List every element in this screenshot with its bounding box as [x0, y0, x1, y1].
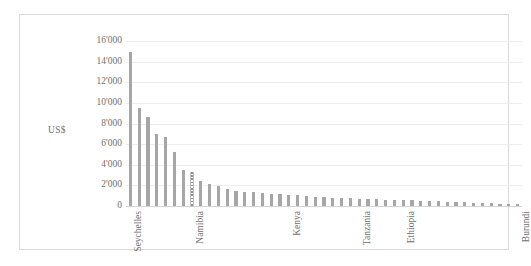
y-axis-tick-label: 16'000: [97, 36, 122, 46]
bar: [490, 203, 493, 206]
bar: [129, 52, 132, 206]
bar: [410, 200, 413, 206]
bar: [296, 195, 299, 206]
bar: [182, 170, 185, 206]
bar: [243, 192, 246, 206]
bar: [481, 203, 484, 206]
y-axis-tick-label: 8'000: [101, 119, 122, 129]
bar: [437, 201, 440, 206]
bar: [199, 181, 202, 206]
y-axis-tick-label: 6'000: [101, 139, 122, 149]
bar: [366, 199, 369, 206]
bar: [278, 194, 281, 206]
bar: [340, 198, 343, 206]
y-axis-tick-label: 0: [117, 201, 122, 211]
y-axis-tick-label: 2'000: [101, 181, 122, 191]
bar: [349, 198, 352, 206]
y-axis-tick-labels: 16'00014'00012'00010'0008'0006'0004'0002…: [75, 41, 122, 207]
bar: [146, 117, 149, 206]
bar: [393, 200, 396, 206]
bar: [287, 195, 290, 206]
bar: [305, 196, 308, 206]
bar: [208, 184, 211, 206]
bar: [402, 200, 405, 206]
bar: [217, 186, 220, 206]
bar: [164, 137, 167, 206]
bar: [419, 201, 422, 206]
bar-highlighted: [190, 172, 193, 206]
bar: [252, 192, 255, 206]
bar: [331, 198, 334, 206]
bar: [516, 204, 519, 206]
bar: [454, 202, 457, 206]
bar: [375, 199, 378, 206]
x-axis-line: [126, 206, 522, 207]
y-axis-tick-label: 10'000: [97, 98, 122, 108]
x-axis-category-label: Seychelles: [134, 211, 144, 252]
bar: [446, 202, 449, 206]
bar: [270, 194, 273, 206]
bar: [226, 189, 229, 206]
bar: [234, 191, 237, 206]
chart-frame: US$ 16'00014'00012'00010'0008'0006'0004'…: [19, 14, 509, 250]
bar: [384, 200, 387, 206]
bar-series: [126, 41, 522, 206]
bar: [138, 108, 141, 206]
bar: [261, 193, 264, 206]
x-axis-category-label: Burundi: [522, 211, 531, 242]
y-axis-tick-label: 14'000: [97, 57, 122, 67]
x-axis-category-label: Namibia: [196, 211, 206, 244]
x-axis-category-label: Tanzania: [363, 211, 373, 245]
bar: [155, 134, 158, 206]
bar: [498, 204, 501, 206]
y-axis-tick-label: 4'000: [101, 160, 122, 170]
bar: [463, 202, 466, 206]
bar: [507, 204, 510, 206]
y-axis-title: US$: [48, 125, 66, 135]
bar: [314, 197, 317, 206]
bar: [173, 152, 176, 206]
bar: [358, 199, 361, 206]
x-axis-category-labels: SeychellesNamibiaKenyaTanzaniaEthiopiaBu…: [126, 211, 522, 263]
y-axis-tick-label: 12'000: [97, 78, 122, 88]
x-axis-category-label: Ethiopia: [407, 211, 417, 243]
plot-area: [126, 41, 522, 207]
x-axis-category-label: Kenya: [293, 211, 303, 236]
bar: [322, 197, 325, 206]
bar: [428, 201, 431, 206]
bar: [472, 203, 475, 206]
